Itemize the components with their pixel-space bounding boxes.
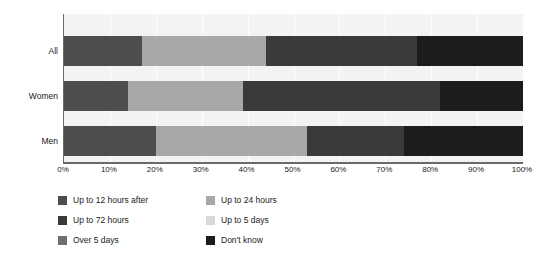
- x-tick-10: 10%: [101, 165, 117, 174]
- bar-segment: [64, 126, 156, 156]
- bar-segment: [128, 81, 243, 111]
- x-tick-20: 20%: [147, 165, 163, 174]
- bar-segment: [142, 36, 266, 66]
- legend-label: Up to 5 days: [221, 215, 269, 225]
- legend-label: Don't know: [221, 235, 263, 245]
- stacked-bar-chart: AllWomenMen 0%10%20%30%40%50%60%70%80%90…: [0, 0, 548, 258]
- legend-swatch-icon: [206, 236, 215, 245]
- bar-segment: [417, 36, 523, 66]
- x-tick-0: 0%: [57, 165, 69, 174]
- legend-item[interactable]: Up to 72 hours: [58, 210, 148, 230]
- x-tick-90: 90%: [468, 165, 484, 174]
- x-tick-70: 70%: [376, 165, 392, 174]
- legend-column-2: Up to 24 hoursUp to 5 daysDon't know: [206, 190, 277, 250]
- bar-segment: [156, 126, 307, 156]
- x-tick-60: 60%: [330, 165, 346, 174]
- legend-item[interactable]: Up to 24 hours: [206, 190, 277, 210]
- bar-segment: [64, 36, 142, 66]
- x-axis-line: [63, 162, 523, 164]
- bar-segment: [243, 81, 440, 111]
- y-axis-label-men: Men: [6, 126, 58, 156]
- x-tick-80: 80%: [422, 165, 438, 174]
- x-tick-50: 50%: [284, 165, 300, 174]
- legend-swatch-icon: [206, 216, 215, 225]
- legend-column-1: Up to 12 hours afterUp to 72 hoursOver 5…: [58, 190, 148, 250]
- bar-row-women: [64, 81, 523, 111]
- legend-label: Up to 12 hours after: [73, 195, 148, 205]
- legend-item[interactable]: Over 5 days: [58, 230, 148, 250]
- legend-label: Up to 72 hours: [73, 215, 129, 225]
- bar-segment: [266, 36, 417, 66]
- legend-swatch-icon: [58, 216, 67, 225]
- plot-area: [63, 14, 523, 162]
- legend-item[interactable]: Up to 5 days: [206, 210, 277, 230]
- y-axis-label-all: All: [6, 36, 58, 66]
- y-axis-label-women: Women: [6, 81, 58, 111]
- x-tick-100: 100%: [512, 165, 532, 174]
- bar-segment: [404, 126, 523, 156]
- x-tick-30: 30%: [193, 165, 209, 174]
- bar-row-all: [64, 36, 523, 66]
- legend-swatch-icon: [58, 196, 67, 205]
- legend-swatch-icon: [58, 236, 67, 245]
- bar-segment: [64, 81, 128, 111]
- legend-label: Up to 24 hours: [221, 195, 277, 205]
- bar-row-men: [64, 126, 523, 156]
- legend-label: Over 5 days: [73, 235, 119, 245]
- legend-item[interactable]: Don't know: [206, 230, 277, 250]
- bar-segment: [307, 126, 403, 156]
- gridline-100: [523, 14, 524, 162]
- x-tick-40: 40%: [239, 165, 255, 174]
- legend-swatch-icon: [206, 196, 215, 205]
- legend-item[interactable]: Up to 12 hours after: [58, 190, 148, 210]
- bar-segment: [440, 81, 523, 111]
